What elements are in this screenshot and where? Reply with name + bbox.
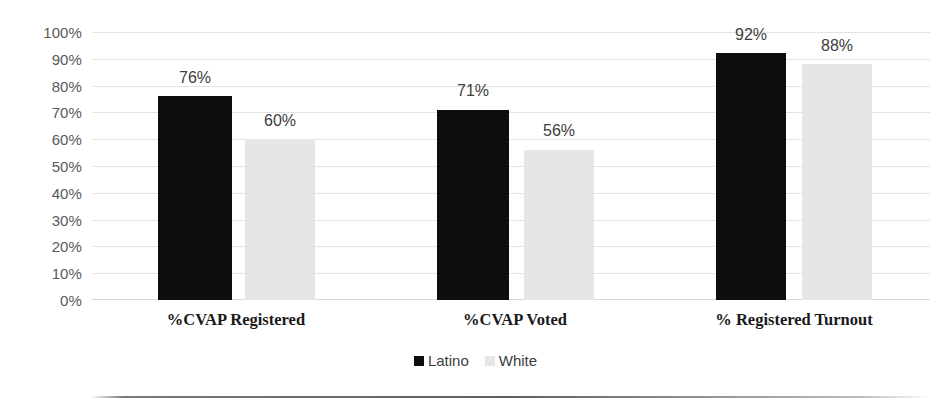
y-axis-tick: 100%: [43, 24, 82, 41]
chart-legend: Latino White: [0, 352, 951, 369]
bar-white-cvap-voted[interactable]: [524, 150, 594, 300]
bar-latino-registered-turnout[interactable]: [716, 53, 786, 300]
y-axis: 100% 90% 80% 70% 60% 50% 40% 30% 20% 10%…: [0, 0, 92, 402]
y-axis-tick: 80%: [52, 77, 82, 94]
data-label-white-registered-turnout: 88%: [821, 37, 853, 55]
data-label-latino-cvap-voted: 71%: [457, 82, 489, 100]
bar-white-registered-turnout[interactable]: [802, 64, 872, 300]
plot-area: 76% 60% 71% 56% 92% 88%: [92, 32, 930, 300]
y-axis-tick: 60%: [52, 131, 82, 148]
y-axis-tick: 50%: [52, 158, 82, 175]
y-axis-tick: 10%: [52, 265, 82, 282]
y-axis-tick: 70%: [52, 104, 82, 121]
legend-swatch-icon: [485, 356, 495, 366]
data-label-white-cvap-registered: 60%: [264, 112, 296, 130]
bar-chart: 100% 90% 80% 70% 60% 50% 40% 30% 20% 10%…: [0, 0, 951, 402]
category-label-cvap-voted: %CVAP Voted: [463, 310, 567, 330]
bars-layer: 76% 60% 71% 56% 92% 88%: [92, 32, 930, 300]
data-label-latino-cvap-registered: 76%: [179, 69, 211, 87]
data-label-white-cvap-voted: 56%: [543, 122, 575, 140]
legend-swatch-icon: [414, 356, 424, 366]
legend-item-white[interactable]: White: [485, 352, 537, 369]
data-label-latino-registered-turnout: 92%: [735, 26, 767, 44]
legend-label-white: White: [499, 352, 537, 369]
bar-latino-cvap-voted[interactable]: [437, 110, 509, 300]
y-axis-tick: 30%: [52, 211, 82, 228]
y-axis-tick: 0%: [60, 292, 82, 309]
legend-label-latino: Latino: [428, 352, 469, 369]
bar-latino-cvap-registered[interactable]: [158, 96, 232, 300]
bottom-divider: [90, 396, 930, 398]
category-label-cvap-registered: %CVAP Registered: [167, 310, 305, 330]
y-axis-tick: 20%: [52, 238, 82, 255]
category-label-registered-turnout: % Registered Turnout: [715, 310, 872, 330]
bar-white-cvap-registered[interactable]: [245, 139, 315, 300]
y-axis-tick: 90%: [52, 50, 82, 67]
y-axis-tick: 40%: [52, 184, 82, 201]
x-axis-category-labels: %CVAP Registered %CVAP Voted % Registere…: [92, 310, 930, 336]
legend-item-latino[interactable]: Latino: [414, 352, 469, 369]
